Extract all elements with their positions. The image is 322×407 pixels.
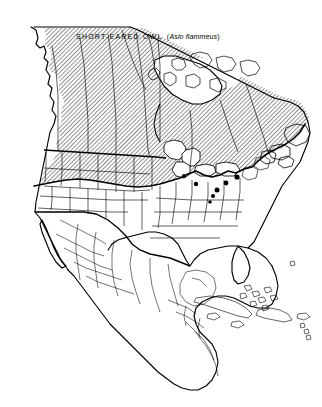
range-map-figure: SHORT-EARED OWL (Asio flammeus) [0,0,322,407]
north-america-map [0,0,322,407]
